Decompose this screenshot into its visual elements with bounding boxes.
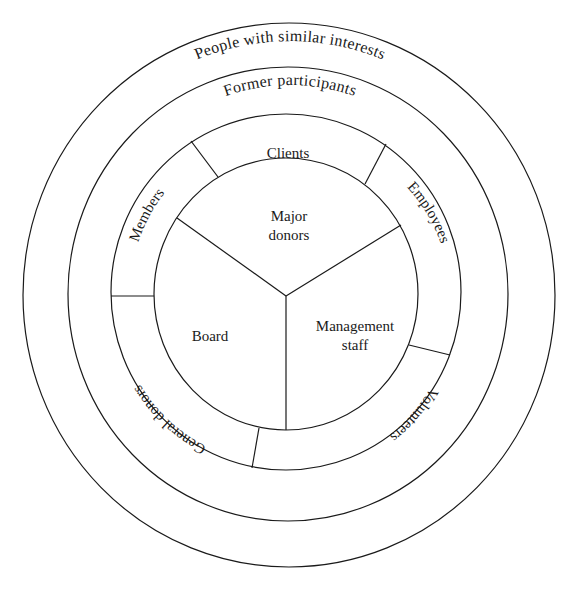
label-volunteers: Volunteers [387, 386, 442, 446]
second-ring [68, 67, 508, 521]
outer-ring [23, 23, 555, 567]
stakeholder-diagram: People with similar interests Former par… [0, 0, 578, 590]
divider-clients-employees [365, 144, 386, 184]
divider-employees-volunteers [409, 345, 450, 355]
label-former-participants: Former participants [221, 71, 359, 99]
label-major-donors-line2: donors [269, 227, 310, 243]
divider-volunteers-general-donors [252, 428, 259, 468]
label-clients: Clients [267, 145, 310, 161]
label-members: Members [126, 185, 167, 244]
label-board: Board [192, 328, 229, 344]
divider-members-clients [191, 141, 218, 177]
label-major-donors-line1: Major [271, 208, 308, 224]
label-management-line1: Management [316, 318, 395, 334]
label-management-line2: staff [342, 337, 368, 353]
